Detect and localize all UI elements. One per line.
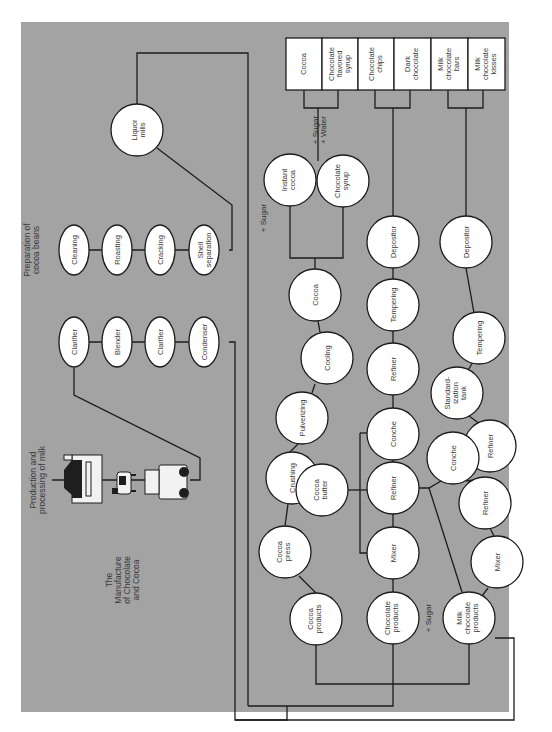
node-label: Refiner [389,475,398,500]
node-label: Cleaning [70,235,79,265]
node-label: Instantcocoa [280,168,297,191]
diagram-panel [21,22,509,712]
node-label: Mixer [389,543,398,562]
node-label: Refiner [389,356,398,381]
product-label: Cocoa [299,52,308,75]
node-label: Cocoabutter [312,478,329,501]
chocolate-manufacture-diagram: Cocoa Chocolateflavoredsyrup Chocolatech… [0,0,552,732]
node-label: Conche [449,445,458,471]
node-label: Roasting [113,235,122,265]
node-label: Mixer [493,552,502,571]
sugar-note: + Sugar [259,204,268,233]
node-label: Conche [389,421,398,447]
sugar-water-note: + Sugar+ Water [311,116,328,145]
milk-heading: Production andprocessing of milk [28,445,47,514]
milk-truck-icon [145,465,189,499]
node-label: Refiner [481,490,490,515]
node-label: Depositor [389,225,398,258]
node-label: Depositor [462,225,471,258]
node-label: Cocoa [311,283,320,306]
node-label: Clarifier [156,329,165,355]
node-label: Cocoapress [275,540,292,563]
node-label: Crushing [288,463,297,493]
node-label: Condenser [200,323,209,360]
node-label: Tempering [475,320,484,355]
node-label: Chocolateproducts [383,601,400,635]
node-label: Refiner [486,433,495,458]
node-label: Tempering [389,287,398,322]
node-label: Blender [113,329,122,355]
sugar-note: + Sugar [424,604,433,633]
node-label: Cooling [323,345,332,370]
final-products-box: Cocoa Chocolateflavoredsyrup Chocolatech… [286,38,505,90]
node-label: Cocoaproducts [306,604,323,633]
node-label: Cracking [156,235,165,265]
node-label: Pulverizing [298,400,307,437]
beans-heading: Preparation ofcocoa beans [22,223,41,277]
node-label: Clarifier [70,329,79,355]
